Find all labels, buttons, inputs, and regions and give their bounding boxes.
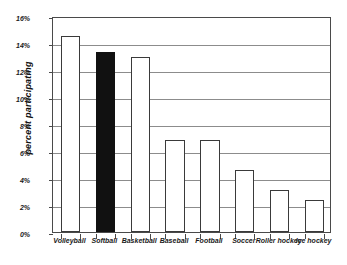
bar-chart: percent participating 0%2%4%6%8%10%12%14… xyxy=(0,0,347,265)
y-tick-mark xyxy=(49,45,53,46)
y-tick-label: 4% xyxy=(0,177,30,184)
x-label-baseball: Baseball xyxy=(160,237,189,244)
gridline xyxy=(53,72,330,73)
y-tick-mark xyxy=(49,72,53,73)
bar-soccer[interactable] xyxy=(235,170,254,232)
bar-roller-hockey[interactable] xyxy=(270,190,289,232)
x-label-softball: Softball xyxy=(91,237,117,244)
gridline xyxy=(53,126,330,127)
bar-softball[interactable] xyxy=(96,52,115,232)
x-label-football: Football xyxy=(195,237,222,244)
bar-volleyball[interactable] xyxy=(61,36,80,232)
gridline xyxy=(53,153,330,154)
y-tick-mark xyxy=(49,126,53,127)
y-tick-label: 16% xyxy=(0,15,30,22)
gridline xyxy=(53,180,330,181)
x-label-ice-hockey: Ice hockey xyxy=(296,237,332,244)
y-tick-label: 10% xyxy=(0,96,30,103)
y-tick-mark xyxy=(49,180,53,181)
y-tick-mark xyxy=(49,18,53,19)
y-tick-label: 8% xyxy=(0,123,30,130)
y-tick-mark xyxy=(49,207,53,208)
y-tick-mark xyxy=(49,234,53,235)
gridline xyxy=(53,99,330,100)
bar-ice-hockey[interactable] xyxy=(305,200,324,232)
bar-football[interactable] xyxy=(200,140,219,232)
x-label-basketball: Basketball xyxy=(122,237,157,244)
y-tick-label: 0% xyxy=(0,231,30,238)
y-axis-title: percent participating xyxy=(23,33,33,183)
y-tick-label: 14% xyxy=(0,42,30,49)
bar-basketball[interactable] xyxy=(131,57,150,233)
y-tick-label: 2% xyxy=(0,204,30,211)
x-label-volleyball: Volleyball xyxy=(53,237,85,244)
x-label-soccer: Soccer xyxy=(232,237,255,244)
y-tick-label: 6% xyxy=(0,150,30,157)
y-tick-label: 12% xyxy=(0,69,30,76)
y-tick-mark xyxy=(49,153,53,154)
y-tick-mark xyxy=(49,99,53,100)
bar-baseball[interactable] xyxy=(165,140,184,232)
plot-area: 0%2%4%6%8%10%12%14%16% xyxy=(52,17,331,233)
gridline xyxy=(53,45,330,46)
